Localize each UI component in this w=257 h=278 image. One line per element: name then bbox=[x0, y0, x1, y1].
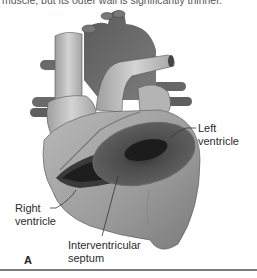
label-line: Right bbox=[15, 202, 56, 215]
label-line: ventricle bbox=[198, 135, 239, 148]
label-line: ventricle bbox=[15, 215, 56, 228]
label-line: Left bbox=[198, 122, 239, 135]
label-interventricular-septum: Interventricular septum bbox=[68, 239, 141, 264]
horizontal-divider bbox=[0, 269, 257, 271]
label-line: septum bbox=[68, 252, 141, 265]
label-right-ventricle: Right ventricle bbox=[15, 202, 56, 227]
panel-letter: A bbox=[24, 254, 32, 266]
label-line: Interventricular bbox=[68, 239, 141, 252]
label-left-ventricle: Left ventricle bbox=[198, 122, 239, 147]
superior-vena-cava bbox=[55, 32, 82, 102]
